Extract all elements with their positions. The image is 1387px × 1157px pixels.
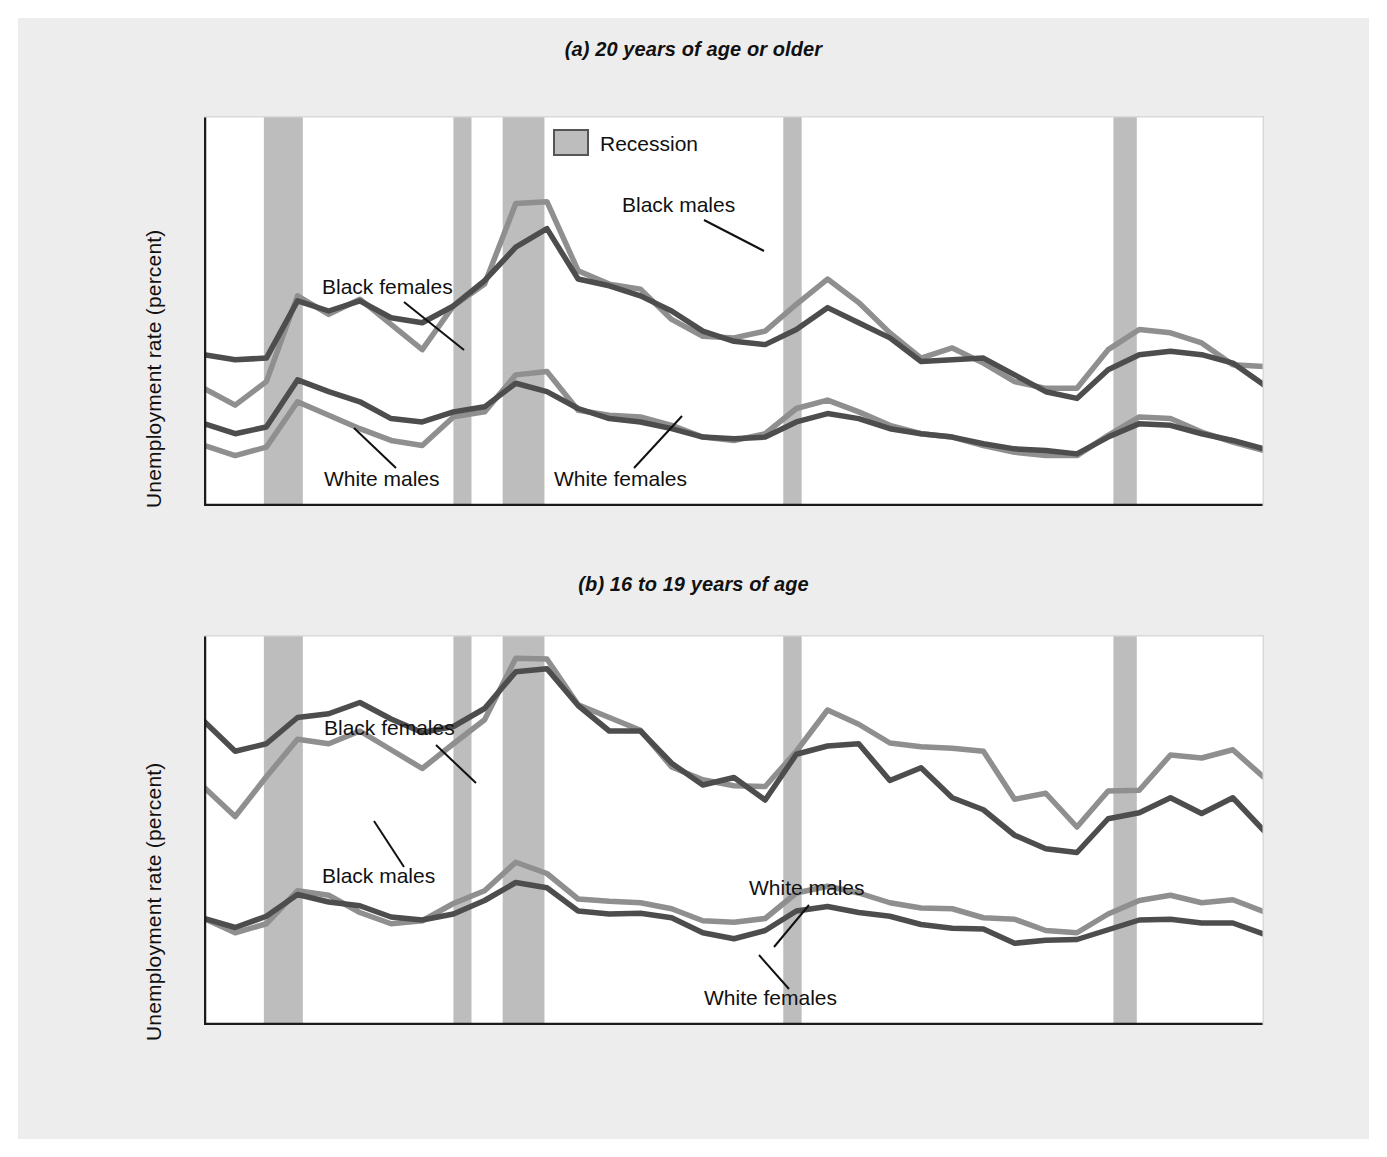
series-label-black-males: Black males xyxy=(622,193,735,216)
recession-band xyxy=(1113,635,1136,1025)
plot-background xyxy=(204,635,1264,1025)
panel-a-title-text: 20 years of age or older xyxy=(590,38,823,60)
panel-b-plot: 1020304019721974197619781980198219841986… xyxy=(204,635,1264,1025)
panel-b-title-text: 16 to 19 years of age xyxy=(604,573,809,595)
panel-b-title: (b) 16 to 19 years of age xyxy=(18,573,1369,596)
series-label-black-females: Black females xyxy=(322,275,453,298)
series-label-white-males: White males xyxy=(749,876,865,899)
series-label-black-females: Black females xyxy=(324,716,455,739)
recession-band xyxy=(264,635,303,1025)
recession-band xyxy=(503,116,545,506)
recession-band xyxy=(783,635,801,1025)
panel-a: (a) 20 years of age or older Unemploymen… xyxy=(18,38,1369,558)
legend-label-recession: Recession xyxy=(600,132,698,155)
panel-a-tag: (a) xyxy=(565,38,590,60)
series-label-white-females: White females xyxy=(704,986,837,1009)
panel-b-tag: (b) xyxy=(578,573,604,595)
recession-band xyxy=(503,635,545,1025)
recession-band xyxy=(453,116,471,506)
panel-b-ylabel: Unemployment rate (percent) xyxy=(142,762,166,1041)
panel-a-ylabel: Unemployment rate (percent) xyxy=(142,229,166,508)
series-label-black-males: Black males xyxy=(322,864,435,887)
plot-background xyxy=(204,116,1264,506)
figure-page: (a) 20 years of age or older Unemploymen… xyxy=(0,0,1387,1157)
series-label-white-females: White females xyxy=(554,467,687,490)
panel-b: (b) 16 to 19 years of age Unemployment r… xyxy=(18,573,1369,1113)
legend-swatch-recession xyxy=(554,130,588,155)
panel-b-svg: 1020304019721974197619781980198219841986… xyxy=(204,635,1264,1025)
panel-a-title: (a) 20 years of age or older xyxy=(18,38,1369,61)
recession-band xyxy=(264,116,303,506)
panel-a-svg: 5101520197219741976197819801982198419861… xyxy=(204,116,1264,506)
recession-band xyxy=(453,635,471,1025)
recession-band xyxy=(1113,116,1136,506)
figure-paper: (a) 20 years of age or older Unemploymen… xyxy=(18,18,1369,1139)
panel-a-plot: 5101520197219741976197819801982198419861… xyxy=(204,116,1264,506)
series-label-white-males: White males xyxy=(324,467,440,490)
